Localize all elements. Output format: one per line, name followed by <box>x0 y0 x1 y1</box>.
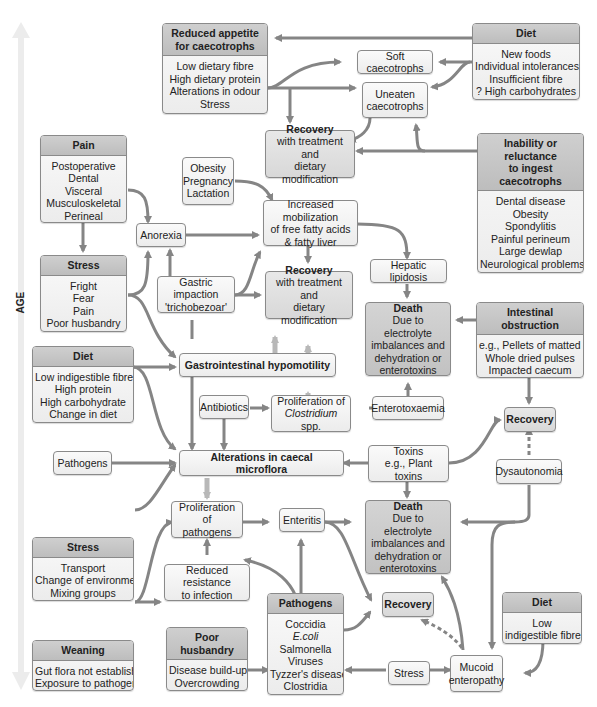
increased-mobilization-box: Increased mobilization of free fatty aci… <box>263 200 358 246</box>
reduced-appetite-box: Reduced appetitefor caecotrophs Low diet… <box>162 23 268 114</box>
pain-box: Pain Postoperative Dental Visceral Muscu… <box>40 135 127 223</box>
toxins-box: Toxins e.g., Plant toxins <box>368 445 449 482</box>
recovery-right-box: Recovery <box>504 407 556 432</box>
gastric-impaction-box: Gastric impaction 'trichobezoar' <box>157 276 235 313</box>
alterations-microflora-box: Alterations in caecal microflora <box>179 450 344 476</box>
poor-husbandry-box: Poor husbandry Disease build-up Overcrow… <box>166 627 248 691</box>
enteritis-box: Enteritis <box>279 508 325 532</box>
recovery-bottom-box: Recovery <box>382 592 434 617</box>
pathogens-small-box: Pathogens <box>53 451 112 475</box>
death-bottom-box: Death Due to electrolyte imbalances and … <box>365 500 451 574</box>
inability-box: Inability or reluctanceto ingest caecotr… <box>477 133 584 273</box>
recovery-top-box: Recovery with treatment and dietary modi… <box>265 130 355 178</box>
recovery-mid-box: Recovery with treatment and dietary modi… <box>265 271 353 319</box>
diet-top-box: Diet New foods Individual intolerances I… <box>472 23 580 100</box>
dysautonomia-box: Dysautonomia <box>496 459 562 484</box>
age-axis-arrow <box>12 22 30 690</box>
enterotoxaemia-box: Enterotoxaemia <box>372 396 444 420</box>
weaning-box: Weaning Gut flora not established Exposu… <box>32 640 134 691</box>
antibiotics-box: Antibiotics <box>199 395 249 419</box>
uneaten-caecotrophs-box: Uneaten caecotrophs <box>362 82 428 118</box>
gi-hypomotility-box: Gastrointestinal hypomotility <box>179 353 336 377</box>
proliferation-pathogens-box: Proliferation of pathogens <box>171 501 243 538</box>
diet-mid-box: Diet Low indigestible fibre High protein… <box>32 346 134 423</box>
obesity-pregnancy-box: Obesity Pregnancy Lactation <box>182 157 234 205</box>
mucoid-enteropathy-box: Mucoid enteropathy <box>450 655 503 692</box>
hepatic-lipidosis-box: Hepatic lipidosis <box>370 259 447 283</box>
reduced-resistance-box: Reduced resistance to infection <box>164 564 250 601</box>
pathogens-box: Pathogens Coccidia E.coli Salmonella Vir… <box>267 593 344 695</box>
stress-mid-box: Stress Fright Fear Pain Poor husbandry <box>40 255 127 332</box>
anorexia-box: Anorexia <box>136 223 186 247</box>
death-top-box: Death Due to electrolyte imbalances and … <box>365 302 451 376</box>
stress-small-box: Stress <box>388 661 430 685</box>
intestinal-obstruction-box: Intestinal obstruction e.g., Pellets of … <box>476 302 584 378</box>
soft-caecotrophs-box: Soft caecotrophs <box>357 50 433 74</box>
diet-bottom-box: Diet Low indigestible fibre <box>502 592 582 644</box>
stress-low-box: Stress Transport Change of environment M… <box>32 537 134 601</box>
age-axis-label: AGE <box>15 298 26 314</box>
proliferation-clostridium-box: Proliferation of Clostridium spp. <box>271 395 351 432</box>
